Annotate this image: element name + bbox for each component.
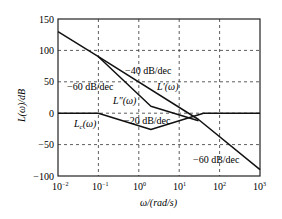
x-tick-labels: 10−2 10−1 100 101 102 103 (52, 181, 266, 192)
grid (58, 19, 260, 176)
x-tick-1e3: 103 (253, 181, 266, 192)
plot-frame (58, 19, 260, 176)
x-axis-title: ω/(rad/s) (140, 197, 178, 209)
x-tick-1e1: 101 (173, 181, 186, 192)
curves (58, 32, 260, 170)
annotation-minus60-left: −60 dB/dec (67, 81, 114, 92)
annotation-Lc: Lc(ω) (73, 118, 97, 131)
y-tick-50: 50 (44, 76, 54, 87)
y-tick-labels: 150 100 50 0 −50 −100 (33, 14, 54, 182)
x-tick-1e-2: 10−2 (52, 181, 68, 192)
y-tick-100: 100 (39, 45, 54, 56)
y-tick-150: 150 (39, 14, 54, 25)
y-tick-minus50: −50 (38, 139, 54, 150)
annotation-minus40: −40 dB/dec (125, 65, 172, 76)
curve-L-prime (58, 32, 260, 170)
x-tick-1e-1: 10−1 (92, 181, 108, 192)
y-tick-0: 0 (49, 108, 54, 119)
bode-magnitude-chart: 150 100 50 0 −50 −100 10−2 10−1 100 101 … (0, 0, 282, 219)
annotation-minus20: −20 dB/dec (124, 115, 171, 126)
x-tick-1e0: 100 (133, 181, 146, 192)
annotation-L-double-prime: L″(ω) (112, 95, 137, 107)
y-tick-minus100: −100 (33, 171, 54, 182)
annotation-minus60-right: −60 dB/dec (193, 154, 240, 165)
x-tick-1e2: 102 (213, 181, 226, 192)
y-axis-title: L(ω)/dB (16, 89, 28, 123)
annotation-L-prime: L′(ω) (156, 81, 179, 93)
annotations: −40 dB/dec −60 dB/dec L′(ω) L″(ω) −20 dB… (67, 65, 240, 165)
